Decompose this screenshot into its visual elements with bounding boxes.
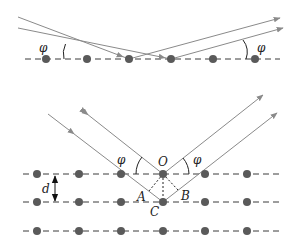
atom [125, 55, 133, 63]
top-angle-label-left: φ [39, 41, 48, 55]
top-incident-ray-1 [18, 17, 129, 59]
label-B: B [180, 189, 190, 203]
atom [117, 227, 125, 235]
atom [117, 170, 125, 178]
atom [243, 198, 251, 206]
incident-ray-to-C [48, 114, 163, 202]
atom [83, 55, 91, 63]
atom [75, 170, 83, 178]
label-d: d [42, 182, 50, 196]
angle-label-right: φ [193, 153, 202, 167]
bragg-diagram: φ φ [0, 0, 298, 249]
atom [243, 170, 251, 178]
atom [42, 55, 50, 63]
atom [33, 198, 41, 206]
atom [75, 227, 83, 235]
top-angle-arc-left [63, 44, 65, 59]
atom [209, 55, 217, 63]
atom [201, 170, 209, 178]
atom [201, 227, 209, 235]
angle-arc-right [183, 158, 189, 174]
label-C: C [150, 205, 159, 219]
atom [33, 227, 41, 235]
diagram-canvas: φ φ [0, 0, 298, 249]
bottom-panel: φ φ O A B C d [23, 95, 280, 235]
atom [167, 55, 175, 63]
angle-label-left: φ [117, 153, 126, 167]
label-O: O [158, 155, 168, 169]
atom [75, 198, 83, 206]
reflected-ray-from-O [163, 95, 263, 174]
atom [159, 227, 167, 235]
label-A: A [136, 190, 146, 204]
atom [251, 55, 259, 63]
angle-arc-left [136, 157, 142, 174]
atom [201, 198, 209, 206]
top-angle-arc-right [243, 40, 247, 59]
top-angle-label-right: φ [257, 41, 266, 55]
atom [117, 198, 125, 206]
atom-C [159, 198, 167, 206]
atom [33, 170, 41, 178]
atom [243, 227, 251, 235]
top-panel: φ φ [18, 17, 283, 63]
atom-O [159, 170, 167, 178]
